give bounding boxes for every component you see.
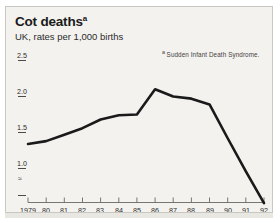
data-series-line — [28, 89, 264, 203]
y-tick-label-1-0: 1.0 — [17, 159, 27, 168]
x-axis-ticks — [28, 198, 264, 203]
y-tick-label-2-0: 2.0 — [17, 87, 27, 96]
y-axis-ticks — [18, 61, 26, 169]
chart-card: Cot deathsa UK, rates per 1,000 births a… — [5, 6, 273, 216]
bottom-strip — [5, 212, 273, 218]
plot-area — [6, 7, 274, 217]
y-axis-break-symbol: ≈ — [18, 175, 22, 182]
y-tick-label-2-5: 2.5 — [17, 51, 27, 60]
y-tick-label-1-5: 1.5 — [17, 123, 27, 132]
